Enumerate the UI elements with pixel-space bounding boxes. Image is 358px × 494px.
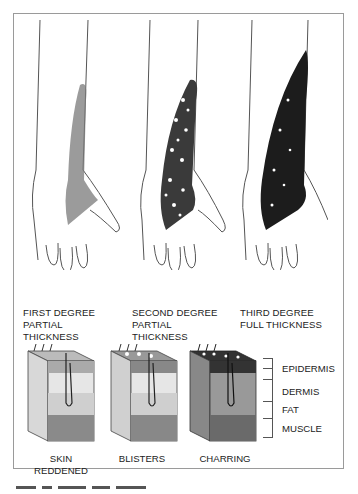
layer-bracket-spine [272,358,273,437]
layer-epidermis: EPIDERMIS [282,363,335,374]
thickness-line-2: THICKNESS [23,331,95,343]
thickness-line-1: FULL THICKNESS [240,319,322,331]
thickness-line-2: THICKNESS [132,331,218,343]
first-degree-label: FIRST DEGREE PARTIAL THICKNESS [23,307,95,343]
thickness-line-1: PARTIAL [23,319,95,331]
layer-dermis: DERMIS [282,386,319,397]
caption-charring: CHARRING [190,453,260,465]
skin-block-first-degree [24,343,96,443]
degree-text: SECOND DEGREE [132,307,218,319]
second-degree-hand-illustration [128,20,228,270]
degree-text: THIRD DEGREE [240,307,322,319]
layer-tick [263,437,273,438]
first-degree-hand-illustration [28,20,128,270]
degree-text: FIRST DEGREE [23,307,95,319]
layer-muscle: MUSCLE [282,423,322,434]
thickness-line-1: PARTIAL [132,319,218,331]
caption-line-1: BLISTERS [110,453,174,465]
skin-block-third-degree [186,343,258,443]
caption-line-1: CHARRING [190,453,260,465]
skin-block-second-degree [107,343,179,443]
third-degree-hand-illustration [228,20,328,270]
figure-caption-cutoff [16,486,196,494]
caption-skin-reddened: SKIN REDDENED [30,453,92,477]
layer-fat: FAT [282,404,299,415]
caption-blisters: BLISTERS [110,453,174,465]
caption-line-2: REDDENED [30,465,92,477]
second-degree-label: SECOND DEGREE PARTIAL THICKNESS [132,307,218,343]
caption-line-1: SKIN [30,453,92,465]
third-degree-label: THIRD DEGREE FULL THICKNESS [240,307,322,331]
